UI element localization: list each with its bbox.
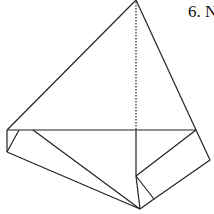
origami-diagram: 6. N: [0, 0, 214, 214]
left-edge-line: [7, 0, 136, 130]
left-flap-diagonal-line: [7, 130, 19, 152]
fold-diagram-drawing: [0, 0, 214, 214]
right-rectangle-flap: [136, 130, 210, 199]
step-label: 6. N: [188, 2, 214, 22]
bottom-point-line: [140, 199, 154, 209]
right-edge-line: [136, 0, 196, 130]
